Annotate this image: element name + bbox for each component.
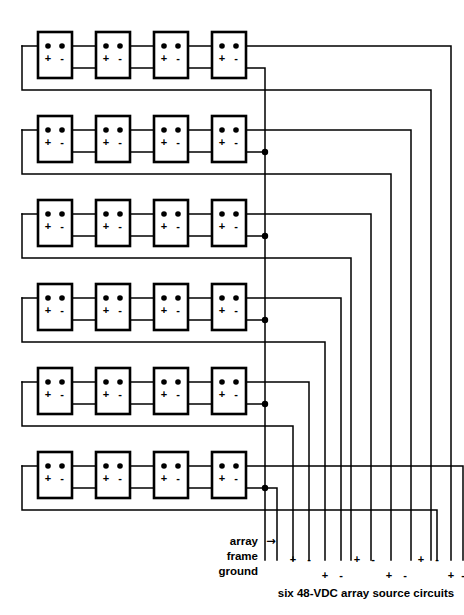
terminal-dot-negative-r3c2 (117, 211, 123, 217)
module-r3-c2 (96, 200, 130, 246)
lead-plus-circuit-2: + (322, 569, 328, 581)
terminal-dot-positive-r2c1 (45, 127, 51, 133)
module-r3-c3 (154, 200, 188, 246)
polarity-minus-r6c2: - (118, 472, 122, 484)
polarity-minus-r4c1: - (60, 304, 64, 316)
polarity-plus-r2c2: + (103, 136, 109, 148)
terminal-dot-positive-r1c4 (219, 43, 225, 49)
ground-bus-junction-row-3 (262, 233, 268, 239)
terminal-dot-negative-r5c3 (175, 379, 181, 385)
module-r5-c3 (154, 368, 188, 414)
module-r3-c1 (38, 200, 72, 246)
lead-minus-circuit-1: - (307, 553, 311, 565)
terminal-dot-positive-r3c2 (103, 211, 109, 217)
polarity-minus-r1c2: - (118, 52, 122, 64)
polarity-minus-r3c3: - (176, 220, 180, 232)
polarity-plus-r3c3: + (161, 220, 167, 232)
terminal-dot-positive-r6c2 (103, 463, 109, 469)
polarity-minus-r3c4: - (234, 220, 238, 232)
terminal-dot-negative-r6c2 (117, 463, 123, 469)
terminal-dot-positive-r4c4 (219, 295, 225, 301)
terminal-dot-positive-r6c1 (45, 463, 51, 469)
terminal-dot-negative-r4c4 (233, 295, 239, 301)
ground-bus-junction-row-5 (262, 401, 268, 407)
polarity-plus-r1c1: + (45, 52, 51, 64)
terminal-dot-negative-r6c1 (59, 463, 65, 469)
polarity-plus-r1c4: + (219, 52, 225, 64)
polarity-minus-r6c1: - (60, 472, 64, 484)
polarity-plus-r5c1: + (45, 388, 51, 400)
module-r4-c4 (212, 284, 246, 330)
module-r1-c2 (96, 32, 130, 78)
module-r5-c4 (212, 368, 246, 414)
polarity-plus-r4c2: + (103, 304, 109, 316)
array-frame-ground-down-run (265, 488, 277, 560)
lead-plus-circuit-5: + (418, 553, 424, 565)
terminal-dot-negative-r1c1 (59, 43, 65, 49)
terminal-dot-positive-r4c1 (45, 295, 51, 301)
polarity-plus-r5c2: + (103, 388, 109, 400)
polarity-plus-r3c4: + (219, 220, 225, 232)
polarity-minus-r4c3: - (176, 304, 180, 316)
terminal-dot-negative-r2c3 (175, 127, 181, 133)
module-r6-c2 (96, 452, 130, 498)
module-r6-c3 (154, 452, 188, 498)
module-r2-c2 (96, 116, 130, 162)
polarity-minus-r5c4: - (234, 388, 238, 400)
terminal-dot-negative-r4c2 (117, 295, 123, 301)
terminal-dot-negative-r3c1 (59, 211, 65, 217)
polarity-plus-r2c3: + (161, 136, 167, 148)
row-2-positive-run (246, 130, 411, 560)
terminal-dot-positive-r3c1 (45, 211, 51, 217)
polarity-minus-r5c1: - (60, 388, 64, 400)
module-r4-c3 (154, 284, 188, 330)
row-2-negative-return (22, 130, 391, 560)
polarity-minus-r2c3: - (176, 136, 180, 148)
array-frame-ground-label-group: array → frame ground (218, 534, 276, 577)
polarity-plus-r4c1: + (45, 304, 51, 316)
terminal-dot-negative-r6c4 (233, 463, 239, 469)
polarity-plus-r1c2: + (103, 52, 109, 64)
row-1-positive-run (246, 46, 451, 560)
polarity-plus-r6c3: + (161, 472, 167, 484)
row-4-negative-return (22, 298, 325, 560)
terminal-dot-positive-r5c2 (103, 379, 109, 385)
terminal-dot-positive-r3c4 (219, 211, 225, 217)
terminal-dot-positive-r6c4 (219, 463, 225, 469)
terminal-dot-negative-r2c2 (117, 127, 123, 133)
terminal-dot-positive-r5c4 (219, 379, 225, 385)
row-1-ground-bus-run (246, 68, 265, 560)
lead-minus-circuit-4: - (403, 569, 407, 581)
polarity-plus-r4c4: + (219, 304, 225, 316)
terminal-dot-negative-r4c3 (175, 295, 181, 301)
polarity-minus-r2c2: - (118, 136, 122, 148)
lead-minus-circuit-5: - (435, 553, 439, 565)
polarity-minus-r5c3: - (176, 388, 180, 400)
polarity-minus-r1c4: - (234, 52, 238, 64)
circuit-lead-polarity-marks: + - + - + - + - + - + - (290, 553, 464, 581)
module-r5-c2 (96, 368, 130, 414)
polarity-plus-r4c3: + (161, 304, 167, 316)
pv-array-wiring-diagram: + - + - + - + - (0, 0, 464, 615)
lead-plus-circuit-6: + (448, 569, 454, 581)
terminal-dot-positive-r1c3 (161, 43, 167, 49)
module-r2-c3 (154, 116, 188, 162)
module-r2-c4 (212, 116, 246, 162)
diagram-caption: six 48-VDC array source circuits (278, 587, 454, 599)
terminal-dot-positive-r2c2 (103, 127, 109, 133)
lead-minus-circuit-3: - (371, 553, 375, 565)
polarity-minus-r4c2: - (118, 304, 122, 316)
ground-label-line-1: array (230, 535, 259, 547)
polarity-minus-r3c2: - (118, 220, 122, 232)
terminal-dot-negative-r1c2 (117, 43, 123, 49)
polarity-plus-r3c2: + (103, 220, 109, 232)
terminal-dot-positive-r5c1 (45, 379, 51, 385)
terminal-dot-negative-r4c1 (59, 295, 65, 301)
polarity-minus-r3c1: - (60, 220, 64, 232)
module-r4-c2 (96, 284, 130, 330)
ground-label-line-2: frame (227, 550, 258, 562)
terminal-dot-positive-r4c2 (103, 295, 109, 301)
module-r6-c1 (38, 452, 72, 498)
right-arrow-icon: → (266, 534, 276, 548)
lead-plus-circuit-1: + (290, 553, 296, 565)
